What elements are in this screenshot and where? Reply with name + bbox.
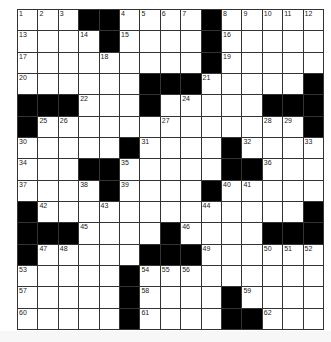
grid-cell[interactable]	[283, 309, 302, 329]
grid-cell[interactable]	[283, 287, 302, 307]
grid-cell[interactable]	[202, 266, 221, 286]
grid-cell[interactable]	[263, 74, 282, 94]
grid-cell[interactable]	[59, 202, 78, 222]
grid-cell[interactable]	[38, 309, 57, 329]
grid-cell[interactable]	[283, 31, 302, 51]
grid-cell[interactable]: 9	[242, 10, 261, 30]
grid-cell[interactable]	[161, 181, 180, 201]
grid-cell[interactable]	[161, 287, 180, 307]
grid-cell[interactable]	[181, 138, 200, 158]
grid-cell[interactable]: 18	[100, 53, 119, 73]
grid-cell[interactable]	[38, 31, 57, 51]
grid-cell[interactable]	[181, 159, 200, 179]
grid-cell[interactable]: 45	[79, 223, 98, 243]
grid-cell[interactable]: 36	[263, 159, 282, 179]
grid-cell[interactable]	[202, 309, 221, 329]
grid-cell[interactable]	[79, 117, 98, 137]
grid-cell[interactable]: 28	[263, 117, 282, 137]
grid-cell[interactable]	[59, 159, 78, 179]
grid-cell[interactable]	[202, 223, 221, 243]
grid-cell[interactable]: 26	[59, 117, 78, 137]
grid-cell[interactable]	[222, 223, 241, 243]
grid-cell[interactable]	[38, 74, 57, 94]
grid-cell[interactable]	[283, 159, 302, 179]
grid-cell[interactable]	[38, 266, 57, 286]
grid-cell[interactable]	[161, 53, 180, 73]
grid-cell[interactable]	[242, 245, 261, 265]
grid-cell[interactable]	[120, 117, 139, 137]
grid-cell[interactable]	[100, 223, 119, 243]
grid-cell[interactable]: 10	[263, 10, 282, 30]
grid-cell[interactable]	[38, 138, 57, 158]
grid-cell[interactable]: 42	[38, 202, 57, 222]
grid-cell[interactable]	[140, 159, 159, 179]
grid-cell[interactable]: 61	[140, 309, 159, 329]
grid-cell[interactable]	[202, 287, 221, 307]
grid-cell[interactable]: 41	[242, 181, 261, 201]
grid-cell[interactable]: 3	[59, 10, 78, 30]
grid-cell[interactable]	[120, 95, 139, 115]
grid-cell[interactable]: 51	[283, 245, 302, 265]
grid-cell[interactable]: 60	[18, 309, 37, 329]
grid-cell[interactable]	[161, 31, 180, 51]
grid-cell[interactable]	[59, 138, 78, 158]
grid-cell[interactable]	[120, 245, 139, 265]
grid-cell[interactable]: 15	[120, 31, 139, 51]
grid-cell[interactable]	[242, 53, 261, 73]
grid-cell[interactable]: 27	[161, 117, 180, 137]
grid-cell[interactable]: 21	[202, 74, 221, 94]
grid-cell[interactable]	[283, 181, 302, 201]
grid-cell[interactable]: 8	[222, 10, 241, 30]
grid-cell[interactable]	[161, 138, 180, 158]
grid-cell[interactable]	[263, 287, 282, 307]
grid-cell[interactable]	[79, 245, 98, 265]
grid-cell[interactable]: 22	[79, 95, 98, 115]
grid-cell[interactable]	[242, 95, 261, 115]
grid-cell[interactable]	[140, 53, 159, 73]
grid-cell[interactable]: 12	[304, 10, 323, 30]
grid-cell[interactable]	[222, 95, 241, 115]
grid-cell[interactable]: 37	[18, 181, 37, 201]
grid-cell[interactable]	[263, 202, 282, 222]
grid-cell[interactable]	[181, 202, 200, 222]
grid-cell[interactable]	[59, 287, 78, 307]
grid-cell[interactable]	[100, 95, 119, 115]
grid-cell[interactable]: 24	[181, 95, 200, 115]
grid-cell[interactable]	[120, 74, 139, 94]
grid-cell[interactable]	[263, 266, 282, 286]
grid-cell[interactable]: 50	[263, 245, 282, 265]
grid-cell[interactable]	[59, 181, 78, 201]
grid-cell[interactable]: 56	[181, 266, 200, 286]
grid-cell[interactable]: 31	[140, 138, 159, 158]
grid-cell[interactable]	[181, 181, 200, 201]
grid-cell[interactable]	[79, 74, 98, 94]
grid-cell[interactable]	[283, 266, 302, 286]
grid-cell[interactable]	[100, 74, 119, 94]
grid-cell[interactable]	[79, 138, 98, 158]
grid-cell[interactable]	[59, 266, 78, 286]
grid-cell[interactable]	[263, 31, 282, 51]
grid-cell[interactable]	[140, 31, 159, 51]
grid-cell[interactable]: 54	[140, 266, 159, 286]
grid-cell[interactable]	[222, 74, 241, 94]
grid-cell[interactable]	[38, 159, 57, 179]
grid-cell[interactable]: 49	[202, 245, 221, 265]
grid-cell[interactable]	[202, 138, 221, 158]
grid-cell[interactable]	[304, 31, 323, 51]
grid-cell[interactable]	[242, 74, 261, 94]
grid-cell[interactable]	[181, 309, 200, 329]
grid-cell[interactable]	[59, 31, 78, 51]
grid-cell[interactable]: 13	[18, 31, 37, 51]
grid-cell[interactable]	[100, 138, 119, 158]
grid-cell[interactable]: 19	[222, 53, 241, 73]
grid-cell[interactable]: 34	[18, 159, 37, 179]
grid-cell[interactable]: 1	[18, 10, 37, 30]
grid-cell[interactable]: 20	[18, 74, 37, 94]
grid-cell[interactable]	[181, 53, 200, 73]
grid-cell[interactable]	[79, 287, 98, 307]
grid-cell[interactable]: 55	[161, 266, 180, 286]
grid-cell[interactable]	[79, 266, 98, 286]
grid-cell[interactable]	[100, 266, 119, 286]
grid-cell[interactable]	[202, 117, 221, 137]
grid-cell[interactable]	[181, 287, 200, 307]
